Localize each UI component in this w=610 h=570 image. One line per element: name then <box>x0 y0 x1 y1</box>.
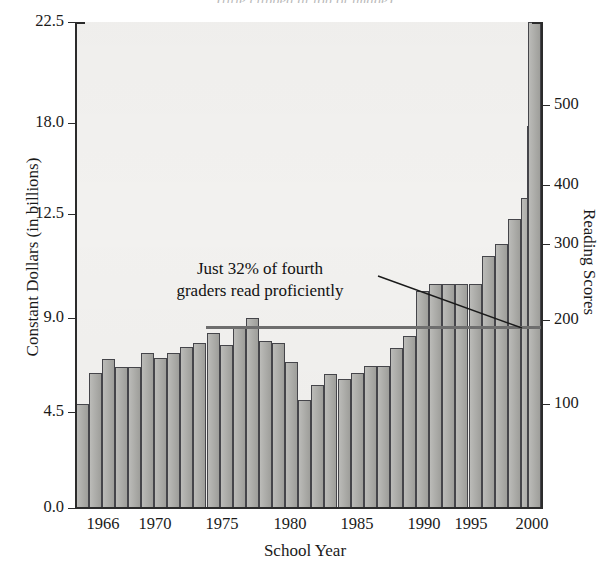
bar <box>102 359 115 508</box>
y-axis-right-title: Reading Scores <box>579 162 599 362</box>
bar <box>141 353 154 508</box>
y-axis-left-tick <box>68 22 76 23</box>
annotation-text: Just 32% of fourth graders read proficie… <box>135 258 385 302</box>
bar <box>528 22 541 508</box>
x-axis-tick-label: 1980 <box>260 514 320 534</box>
bar <box>167 353 180 508</box>
bar <box>377 366 390 508</box>
bar <box>154 358 167 508</box>
y-axis-right-tick <box>542 105 550 106</box>
axis-top-stub-left <box>75 22 85 24</box>
y-axis-left-title: Constant Dollars (in billions) <box>23 107 43 407</box>
y-axis-right-tick <box>542 185 550 186</box>
y-axis-left-line <box>75 22 77 509</box>
y-axis-left-tick <box>68 412 76 413</box>
bar <box>233 326 246 508</box>
x-axis-tick-label: 1966 <box>73 514 133 534</box>
bar <box>311 385 324 508</box>
annotation-leader-line <box>378 272 548 334</box>
x-axis-tick-label: 1985 <box>327 514 387 534</box>
y-axis-right-tick <box>542 404 550 405</box>
bar <box>298 400 311 508</box>
bar <box>246 318 259 508</box>
bar <box>115 367 128 508</box>
bar <box>128 367 141 508</box>
x-axis-tick-label: 1975 <box>192 514 252 534</box>
bar <box>76 404 89 508</box>
bar <box>89 373 102 508</box>
chart-title: (title clipped at top of image) <box>0 0 610 3</box>
bar <box>193 343 206 508</box>
bar <box>180 347 193 508</box>
y-axis-left-tick-label: 22.5 <box>4 11 64 31</box>
y-axis-right-tick-label: 100 <box>554 393 610 413</box>
bar <box>508 219 521 508</box>
y-axis-left-tick <box>68 318 76 319</box>
y-axis-left-tick <box>68 214 76 215</box>
y-axis-left-tick <box>68 508 76 509</box>
bar <box>338 379 351 508</box>
bar <box>272 343 285 508</box>
annotation-line-2: graders read proficiently <box>135 280 385 302</box>
x-axis-tick-label: 1970 <box>125 514 185 534</box>
x-axis-line <box>75 507 543 509</box>
x-axis-title: School Year <box>0 541 610 561</box>
x-axis-tick-label: 1995 <box>441 514 501 534</box>
bar <box>285 362 298 508</box>
y-axis-right-tick-label: 500 <box>554 94 610 114</box>
y-axis-right-line <box>541 22 543 509</box>
annotation-line-1: Just 32% of fourth <box>135 258 385 280</box>
bar <box>324 374 337 508</box>
bar <box>259 341 272 508</box>
axis-top-stub-right <box>532 22 542 24</box>
bar <box>351 373 364 508</box>
x-axis-tick-label: 2000 <box>502 514 562 534</box>
bar <box>403 336 416 508</box>
y-axis-right-tick <box>542 320 550 321</box>
bar <box>220 345 233 508</box>
y-axis-left-tick <box>68 123 76 124</box>
y-axis-left-tick-label: 0.0 <box>4 497 64 517</box>
y-axis-right-tick <box>542 244 550 245</box>
bar <box>364 366 377 508</box>
bar <box>207 333 220 508</box>
bar <box>390 348 403 508</box>
